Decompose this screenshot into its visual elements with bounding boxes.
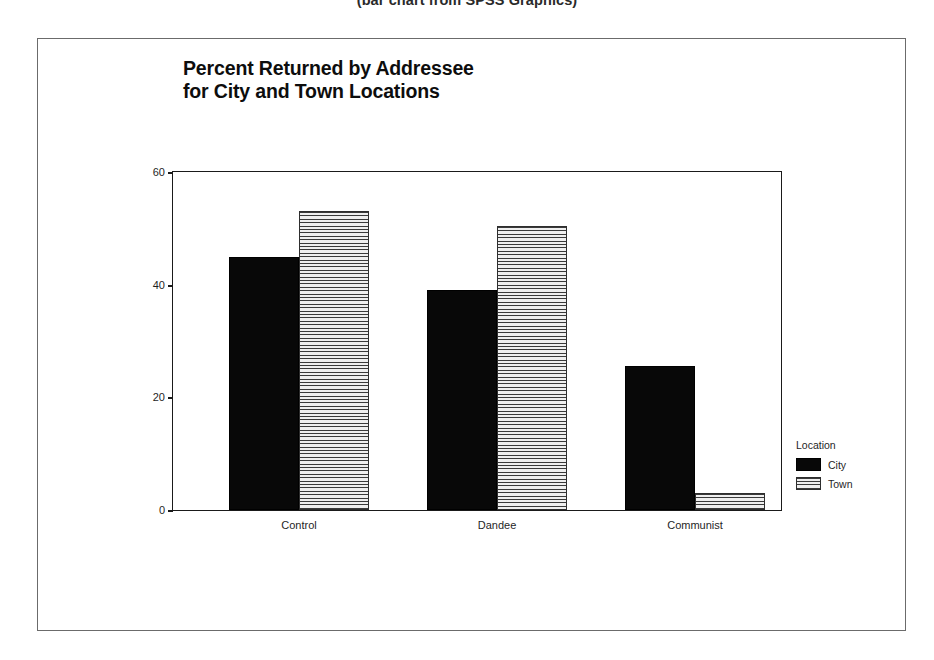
bar-dandee-town[interactable]	[497, 226, 567, 511]
bar-dandee-city[interactable]	[427, 290, 497, 510]
x-category-label: Dandee	[478, 519, 517, 531]
x-category-label: Control	[281, 519, 316, 531]
legend-title: Location	[796, 439, 853, 451]
x-category-label: Communist	[667, 519, 723, 531]
bar-communist-town[interactable]	[695, 493, 765, 510]
plot-area: 60 40 20 0 Control Dandee Communist	[172, 171, 782, 511]
legend: Location City Town	[796, 439, 853, 496]
y-tick-label: 0	[159, 504, 165, 516]
solid-black-swatch-icon	[796, 458, 821, 471]
legend-item-label: City	[828, 459, 846, 471]
y-tick-mark	[168, 397, 173, 399]
legend-item-label: Town	[828, 478, 853, 490]
bar-control-town[interactable]	[299, 211, 369, 510]
figure-caption: (bar chart from SPSS Graphics)	[0, 0, 934, 8]
bar-communist-city[interactable]	[625, 366, 695, 510]
horizontal-hatch-swatch-icon	[796, 477, 821, 490]
chart-title: Percent Returned by Addressee for City a…	[183, 57, 474, 103]
legend-item-city[interactable]: City	[796, 458, 853, 471]
y-tick-label: 60	[153, 166, 165, 178]
y-tick-mark	[168, 510, 173, 512]
y-tick-label: 40	[153, 279, 165, 291]
legend-item-town[interactable]: Town	[796, 477, 853, 490]
bar-control-city[interactable]	[229, 257, 299, 511]
figure-frame: Percent Returned by Addressee for City a…	[37, 38, 906, 631]
y-tick-mark	[168, 172, 173, 174]
y-tick-mark	[168, 285, 173, 287]
y-tick-label: 20	[153, 391, 165, 403]
